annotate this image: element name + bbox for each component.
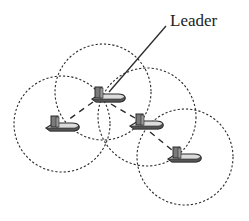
middle-range-circle	[98, 68, 196, 166]
boat-leader	[92, 87, 125, 102]
link-middle-bottom	[150, 132, 172, 150]
formation-diagram: Leader	[0, 0, 249, 221]
link-leader-left	[68, 102, 93, 120]
boat-follower-middle	[130, 114, 163, 129]
leader-label: Leader	[170, 12, 217, 29]
link-leader-middle	[111, 104, 135, 118]
leader-pointer-line	[109, 26, 166, 92]
